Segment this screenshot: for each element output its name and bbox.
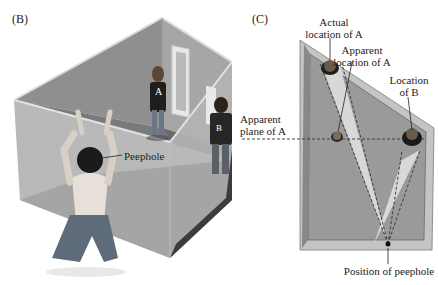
person-b-label: B	[216, 122, 222, 134]
apparent-a-marker	[331, 132, 343, 142]
panel-c-plan-view: (C)	[238, 0, 438, 285]
peephole-label: Peephole	[124, 150, 164, 162]
location-b-label: Location of B	[384, 74, 434, 98]
panel-b-room-3d: (B)	[0, 0, 238, 285]
room-3d-illustration	[0, 0, 238, 285]
room-plan-illustration	[238, 0, 438, 285]
person-a-label: A	[155, 86, 162, 98]
actual-location-a-label: Actual location of A	[304, 16, 364, 40]
apparent-plane-a-label: Apparent plane of A	[240, 113, 286, 137]
apparent-location-a-label: Apparent location of A	[326, 44, 398, 68]
peephole-position-label: Position of peephole	[334, 265, 438, 277]
peephole-marker	[386, 242, 391, 247]
